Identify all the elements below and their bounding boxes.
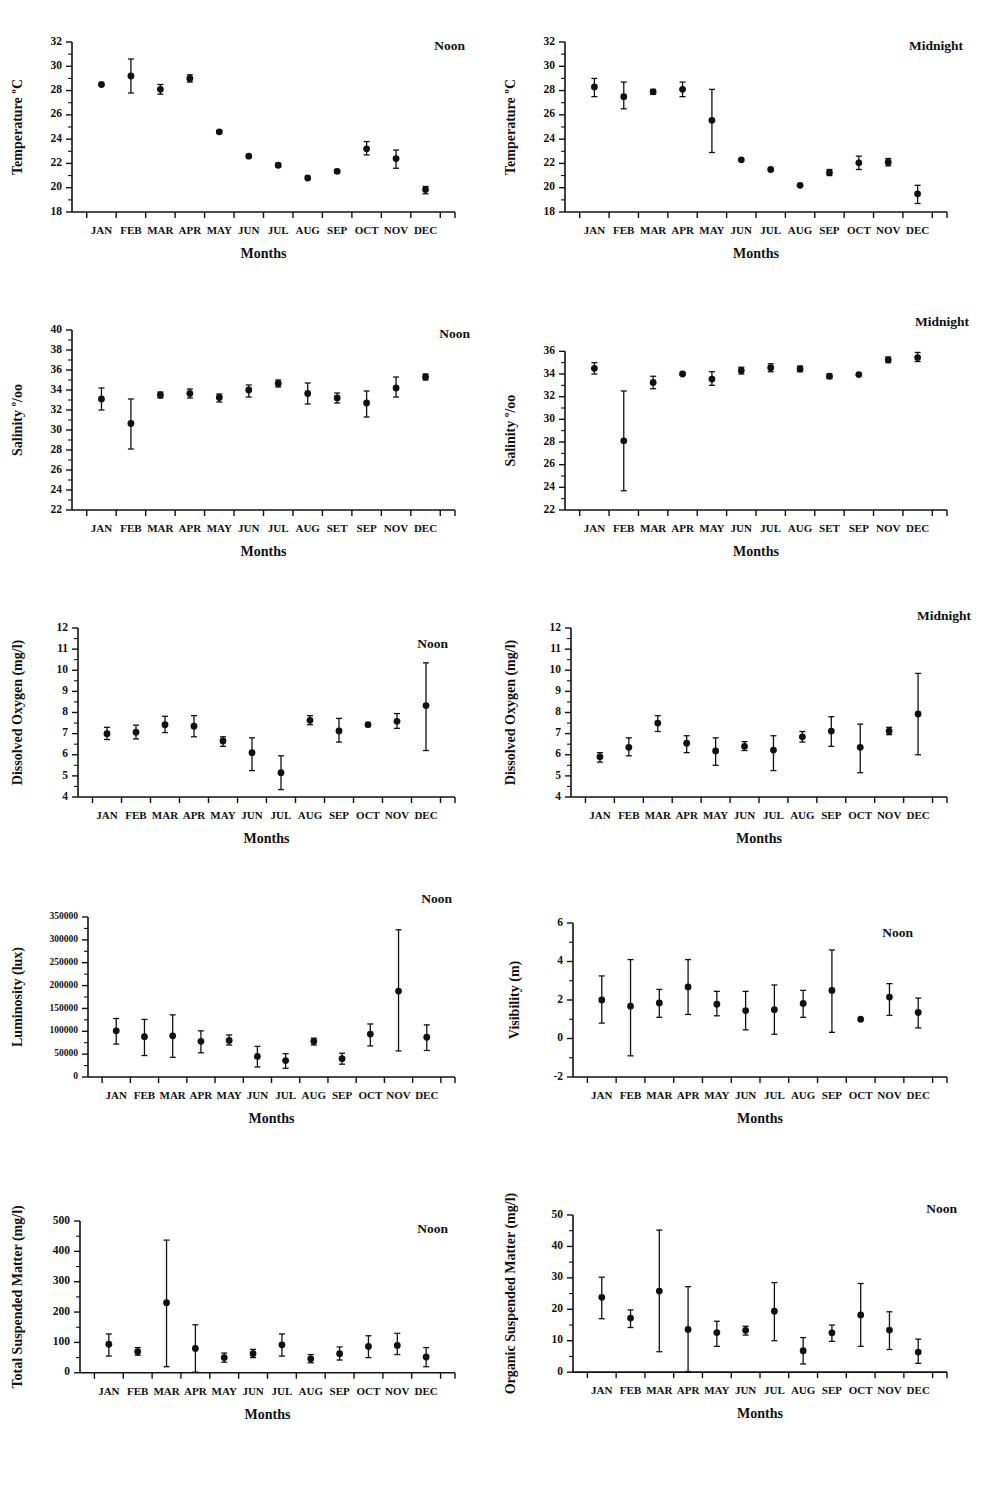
x-tick-label: AUG [302, 1089, 327, 1101]
y-tick-label: 10 [57, 663, 69, 675]
data-point [98, 81, 105, 88]
data-point [191, 723, 198, 730]
x-tick-label: MAY [704, 1384, 729, 1396]
data-point [336, 1350, 343, 1357]
x-tick-label: JUL [760, 522, 781, 534]
x-tick-label: JUL [271, 809, 292, 821]
data-point [915, 1349, 922, 1356]
x-tick-label: SEP [327, 224, 347, 236]
x-tick-label: JUN [735, 1384, 756, 1396]
chart-panel-temperature-noon: 1820222426283032JANFEBMARAPRMAYJUNJULAUG… [0, 0, 493, 300]
data-point [192, 1345, 199, 1352]
x-tick-label: DEC [414, 809, 437, 821]
panel-time-label: Noon [439, 326, 470, 341]
x-tick-label: FEB [127, 1385, 149, 1397]
x-tick-label: SEP [819, 224, 839, 236]
y-tick-label: 6 [557, 916, 563, 928]
x-axis-title: Months [736, 831, 782, 846]
chart-panel-dissolved-oxygen-midnight: 456789101112JANFEBMARAPRMAYJUNJULAUGSEPO… [493, 600, 987, 875]
data-point [307, 717, 314, 724]
data-point [771, 1308, 778, 1315]
data-point [128, 420, 135, 427]
x-tick-label: SET [327, 522, 348, 534]
y-tick-label: 40 [552, 1239, 564, 1251]
chart-panel-dissolved-oxygen-noon: 456789101112JANFEBMARAPRMAYJUNJULAUGSEPO… [0, 600, 493, 875]
x-tick-label: NOV [384, 522, 409, 534]
chart-panel-salinity-midnight: 2224262830323436JANFEBMARAPRMAYJUNJULAUG… [493, 300, 987, 600]
x-tick-label: NOV [384, 224, 409, 236]
y-tick-label: 24 [51, 132, 63, 144]
y-tick-label: 12 [57, 621, 69, 633]
data-point [134, 1348, 141, 1355]
x-tick-label: OCT [849, 1384, 874, 1396]
x-tick-label: APR [179, 224, 203, 236]
x-tick-label: SET [819, 522, 840, 534]
data-point [128, 73, 135, 80]
y-tick-label: 200000 [50, 980, 79, 990]
y-axis-title: Visibility (m) [507, 960, 523, 1039]
data-point [105, 1341, 112, 1348]
data-point [198, 1038, 205, 1045]
y-tick-label: 26 [544, 457, 556, 469]
data-point [598, 1294, 605, 1301]
y-tick-label: 28 [544, 83, 556, 95]
data-point [307, 1355, 314, 1362]
x-tick-label: MAY [703, 809, 728, 821]
chart-panel-temperature-midnight: 1820222426283032JANFEBMARAPRMAYJUNJULAUG… [493, 0, 987, 300]
data-point [162, 721, 169, 728]
y-tick-label: 32 [51, 35, 63, 47]
data-point [393, 385, 400, 392]
y-tick-label: 24 [544, 480, 556, 492]
x-tick-label: DEC [907, 1384, 930, 1396]
x-tick-label: DEC [907, 1089, 930, 1101]
x-tick-label: AUG [790, 809, 815, 821]
data-point [767, 364, 774, 371]
data-point [394, 1342, 401, 1349]
chart-panel-salinity-noon: 22242628303234363840JANFEBMARAPRMAYJUNJU… [0, 300, 493, 600]
x-tick-label: DEC [414, 522, 437, 534]
x-axis-title: Months [241, 544, 287, 559]
x-tick-label: JAN [589, 809, 610, 821]
data-point [275, 380, 282, 387]
y-tick-label: 300000 [50, 934, 79, 944]
y-tick-label: 300 [53, 1274, 71, 1286]
data-point [395, 988, 402, 995]
data-point [914, 354, 921, 361]
x-tick-label: DEC [415, 1385, 438, 1397]
data-point [278, 769, 285, 776]
x-tick-label: APR [671, 522, 695, 534]
x-tick-label: MAR [640, 224, 667, 236]
x-tick-label: NOV [876, 522, 901, 534]
x-axis-title: Months [737, 1111, 783, 1126]
data-point [216, 394, 223, 401]
data-point [656, 1288, 663, 1295]
y-tick-label: 26 [51, 463, 63, 475]
data-point [422, 186, 429, 193]
x-tick-label: JAN [584, 522, 605, 534]
panel-time-label: Noon [417, 636, 448, 651]
data-point [797, 366, 804, 373]
data-point [216, 128, 223, 135]
y-tick-label: 11 [550, 642, 561, 654]
data-point [857, 1312, 864, 1319]
data-point [654, 720, 661, 727]
y-tick-label: 20 [544, 180, 556, 192]
data-point [423, 1354, 430, 1361]
data-point [886, 994, 893, 1001]
y-tick-label: 6 [555, 747, 561, 759]
y-tick-label: 18 [544, 205, 556, 217]
y-tick-label: 10 [552, 1333, 564, 1345]
data-point [336, 727, 343, 734]
x-tick-label: FEB [620, 1089, 642, 1101]
data-point [767, 166, 774, 173]
x-tick-label: APR [179, 522, 203, 534]
y-tick-label: 26 [544, 107, 556, 119]
x-tick-label: JAN [591, 1089, 612, 1101]
y-tick-label: 2 [557, 993, 563, 1005]
x-tick-label: MAR [645, 809, 672, 821]
data-point [855, 371, 862, 378]
x-tick-label: NOV [386, 1089, 411, 1101]
y-tick-label: 50000 [54, 1048, 78, 1058]
x-tick-label: DEC [906, 224, 929, 236]
data-point [886, 728, 893, 735]
